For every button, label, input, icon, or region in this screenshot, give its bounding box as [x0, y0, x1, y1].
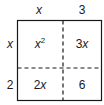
top-label-3: 3: [76, 4, 88, 16]
side-label-x: x: [4, 38, 16, 50]
top-label-x: x: [33, 4, 45, 16]
cell-x-squared: x2: [26, 38, 54, 50]
side-label-2: 2: [4, 79, 16, 91]
cell-3x: 3x: [68, 38, 96, 50]
cell-6: 6: [68, 79, 96, 91]
cell-2x: 2x: [26, 79, 54, 91]
